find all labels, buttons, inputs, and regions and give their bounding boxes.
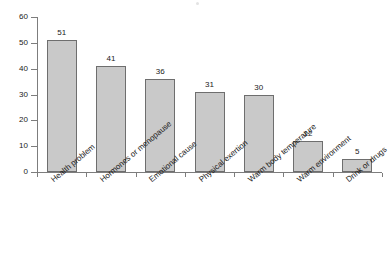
x-axis-tick: [234, 173, 235, 177]
image-artifact-speck: [196, 2, 199, 5]
y-axis-tick-label: 10: [0, 142, 28, 150]
x-axis-tick: [37, 173, 38, 177]
bar: [47, 40, 77, 172]
y-axis-tick-label: 30: [0, 91, 28, 99]
x-axis-tick: [333, 173, 334, 177]
x-axis-tick: [86, 173, 87, 177]
x-axis-tick: [283, 173, 284, 177]
bar-chart: 0102030405060 5141363130125 Health probl…: [0, 0, 388, 255]
bar-value-label: 31: [190, 81, 230, 89]
y-axis-tick-label: 50: [0, 39, 28, 47]
bar-value-label: 36: [140, 68, 180, 76]
bar-value-label: 51: [42, 29, 82, 37]
y-axis-tick-label: 20: [0, 116, 28, 124]
bar-value-label: 41: [91, 55, 131, 63]
y-axis-tick-label: 0: [0, 168, 28, 176]
x-axis-tick: [136, 173, 137, 177]
y-axis-tick-label: 40: [0, 65, 28, 73]
x-axis-tick: [185, 173, 186, 177]
y-axis-tick-label: 60: [0, 13, 28, 21]
bar-value-label: 30: [239, 84, 279, 92]
x-axis-tick: [382, 173, 383, 177]
